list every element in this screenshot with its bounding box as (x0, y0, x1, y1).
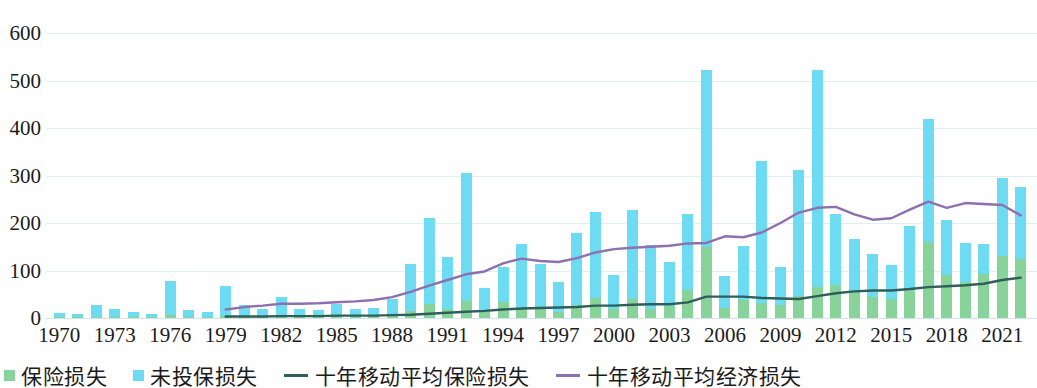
y-tick-label: 300 (10, 165, 42, 186)
x-tick-label: 2018 (926, 322, 968, 348)
x-tick-label: 2000 (593, 322, 635, 348)
x-tick-label: 1988 (371, 322, 413, 348)
y-tick-label: 600 (10, 23, 42, 44)
x-tick-label: 1997 (538, 322, 580, 348)
gridline-0 (46, 318, 1037, 319)
x-tick-label: 1991 (427, 322, 469, 348)
legend-swatch-icon (133, 370, 144, 381)
legend-label: 十年移动平均保险损失 (315, 360, 530, 388)
x-tick-label: 1982 (260, 322, 302, 348)
legend-line-icon (556, 374, 580, 377)
plot-area (46, 33, 1037, 318)
x-tick-label: 1970 (38, 322, 80, 348)
chart-container: 0100200300400500600 19701973197619791982… (0, 0, 1037, 388)
x-tick-label: 1976 (149, 322, 191, 348)
x-tick-label: 2009 (759, 322, 801, 348)
legend-item[interactable]: 未投保损失 (133, 360, 258, 388)
legend-label: 十年移动平均经济损失 (587, 360, 802, 388)
line-series (226, 202, 1021, 310)
chart-legend: 保险损失未投保损失十年移动平均保险损失十年移动平均经济损失 (4, 362, 828, 388)
x-tick-label: 2003 (648, 322, 690, 348)
y-tick-label: 500 (10, 70, 42, 91)
x-tick-label: 2006 (704, 322, 746, 348)
x-tick-label: 1973 (94, 322, 136, 348)
x-tick-label: 1994 (482, 322, 524, 348)
line-series-layer (46, 33, 1037, 318)
legend-swatch-icon (4, 370, 15, 381)
y-tick-label: 400 (10, 118, 42, 139)
legend-item[interactable]: 十年移动平均经济损失 (556, 360, 802, 388)
legend-label: 未投保损失 (150, 360, 258, 388)
legend-line-icon (284, 374, 308, 377)
legend-label: 保险损失 (21, 360, 107, 388)
line-series (226, 278, 1021, 317)
x-tick-label: 1985 (316, 322, 358, 348)
y-tick-label: 100 (10, 260, 42, 281)
x-tick-label: 2012 (815, 322, 857, 348)
x-tick-label: 2015 (870, 322, 912, 348)
x-tick-label: 1979 (205, 322, 247, 348)
x-tick-label: 2021 (981, 322, 1023, 348)
legend-item[interactable]: 保险损失 (4, 360, 107, 388)
y-tick-label: 200 (10, 213, 42, 234)
legend-item[interactable]: 十年移动平均保险损失 (284, 360, 530, 388)
x-axis: 1970197319761979198219851988199119941997… (46, 322, 1037, 354)
